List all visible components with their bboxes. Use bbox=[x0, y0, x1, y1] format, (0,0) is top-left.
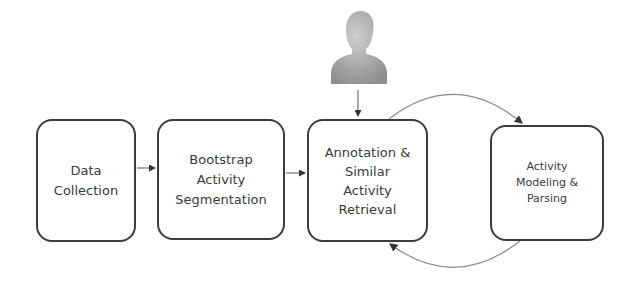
node-data-collection: Data Collection bbox=[36, 119, 136, 242]
node-label: Data Collection bbox=[54, 161, 118, 201]
node-bootstrap-activity-segmentation: Bootstrap Activity Segmentation bbox=[157, 119, 285, 240]
person-icon bbox=[330, 8, 388, 84]
arc-modeling-to-annotation bbox=[390, 241, 520, 267]
node-label: Bootstrap Activity Segmentation bbox=[175, 150, 266, 210]
node-annotation-similar-activity-retrieval: Annotation & Similar Activity Retrieval bbox=[307, 119, 428, 242]
node-activity-modeling-parsing: Activity Modeling & Parsing bbox=[490, 125, 604, 241]
node-label: Activity Modeling & Parsing bbox=[516, 159, 578, 207]
node-label: Annotation & Similar Activity Retrieval bbox=[325, 143, 411, 219]
